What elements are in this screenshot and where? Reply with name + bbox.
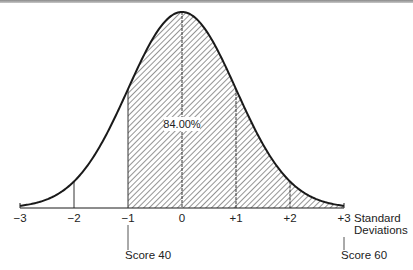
x-axis-title-line2: Deviations (354, 224, 408, 236)
x-tick-labels: −3 −2 −1 0 +1 +2 +3 (13, 212, 350, 224)
tick-label-plus-1: +1 (229, 212, 242, 224)
tick-label-0: 0 (179, 212, 185, 224)
tick-label-plus-3: +3 (337, 212, 350, 224)
score-60-label: Score 60 (341, 249, 387, 261)
score-40-label: Score 40 (125, 249, 171, 261)
tick-label-minus-1: −1 (121, 212, 134, 224)
x-axis-title-line1: Standard (354, 212, 401, 224)
normal-distribution-chart: 84.00% −3 −2 −1 0 +1 +2 +3 Standard Devi… (0, 0, 413, 270)
tick-label-minus-3: −3 (13, 212, 26, 224)
tick-label-plus-2: +2 (283, 212, 296, 224)
tick-label-minus-2: −2 (67, 212, 80, 224)
shaded-area-percent-label: 84.00% (163, 118, 201, 130)
